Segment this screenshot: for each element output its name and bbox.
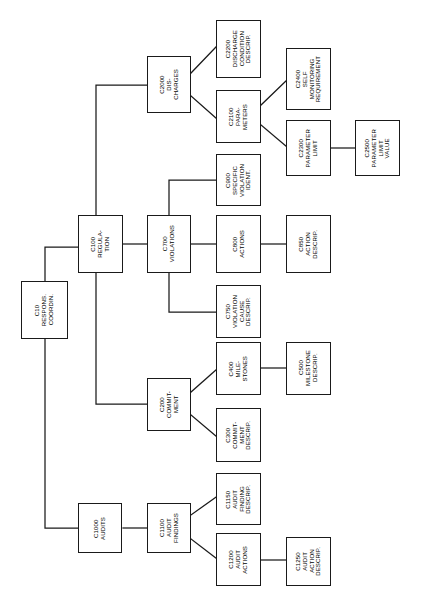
node-label-c900: C900 SPECIFIC VIOLATION IDENT. [225,164,252,197]
connector-14 [191,370,216,392]
node-c500[interactable]: C500 MILESTONE DESCRIP. [286,342,331,395]
node-c750[interactable]: C750 VIOLATION CAUSE DESCRIP. [216,285,261,338]
node-c800[interactable]: C800 ACTIONS [216,215,261,273]
node-c700[interactable]: C700 VIOLATIONS [147,215,191,273]
node-c1200[interactable]: C1200 AUDIT ACTIONS [216,533,261,586]
node-c2100[interactable]: C2100 PARA- METERS [216,90,261,143]
node-label-c750: C750 VIOLATION CAUSE DESCRIP. [225,295,252,328]
connector-8 [261,125,286,146]
node-c200[interactable]: C200 COMMIT- MENT [147,378,191,431]
node-label-c850: C850 ACTION DESCRIP. [298,230,318,259]
node-c2200[interactable]: C2200 DISCHARGE CONDITION DESCRIP. [216,20,261,78]
connector-18 [191,497,216,515]
node-c850[interactable]: C850 ACTION DESCRIP. [286,215,331,273]
node-c10[interactable]: C10 RESPONS. COORDIN. [21,281,68,339]
connector-0 [45,247,78,281]
connector-15 [191,415,216,436]
node-label-c1250: C1250 AUDIT ACTION DESCRIP. [295,547,322,576]
node-c1150[interactable]: C1150 AUDIT FINDING DESCRIP. [216,473,261,525]
node-c1100[interactable]: C1100 AUDIT FINDINGS [147,503,191,553]
node-label-c2200: C2200 DISCHARGE CONDITION DESCRIP. [225,30,252,67]
node-label-c1200: C1200 AUDIT ACTIONS [228,546,248,574]
node-label-c800: C800 ACTIONS [232,230,246,258]
connector-4 [96,273,147,404]
connector-1 [45,339,78,528]
node-c1250[interactable]: C1250 AUDIT ACTION DESCRIP. [286,537,331,586]
node-c400[interactable]: C400 MILE- STONES [216,342,261,395]
node-label-c400: C400 MILE- STONES [228,356,248,382]
node-label-c700: C700 VIOLATIONS [162,225,176,262]
node-label-c500: C500 MILESTONE DESCRIP. [298,350,318,386]
node-label-c300: C300 COMMIT- MENT DESCRIP. [225,421,252,450]
diagram-canvas: C10 RESPONS. COORDIN.C100 REGULA- TIONC7… [0,0,421,603]
node-c900[interactable]: C900 SPECIFIC VIOLATION IDENT. [216,154,261,206]
node-c2500[interactable]: C2500 PARAMETER LIMIT VALUE [355,120,400,176]
node-c2400[interactable]: C2400 SELF MONITORING REQUIREMENT [286,48,331,110]
node-label-c2000: C2000 DIS- CHARGES [159,69,179,100]
connector-7 [261,81,286,105]
connector-6 [191,96,216,118]
node-label-c2500: C2500 PARAMETER LIMIT VALUE [364,129,391,167]
connector-10 [169,180,216,215]
node-label-c2300: C2300 PARAMETER LIMIT [298,129,318,167]
node-c1000[interactable]: C1000 AUDITS [78,503,122,553]
connector-2 [96,85,147,215]
node-label-c2400: C2400 SELF MONITORING REQUIREMENT [295,56,322,102]
node-c100[interactable]: C100 REGULA- TION [78,215,123,273]
node-c2300[interactable]: C2300 PARAMETER LIMIT [286,120,331,176]
node-label-c1150: C1150 AUDIT FINDING DESCRIP. [225,485,252,514]
node-label-c100: C100 REGULA- TION [90,230,110,258]
node-c300[interactable]: C300 COMMIT- MENT DESCRIP. [216,408,261,462]
node-label-c2100: C2100 PARA- METERS [228,104,248,130]
connector-5 [191,47,216,73]
node-c2000[interactable]: C2000 DIS- CHARGES [147,56,191,113]
node-label-c1000: C1000 AUDITS [93,517,107,540]
connector-19 [191,539,216,558]
node-label-c10: C10 RESPONS. COORDIN. [34,294,54,326]
connector-12 [169,273,216,312]
node-label-c200: C200 COMMIT- MENT [159,391,179,418]
node-label-c1100: C1100 AUDIT FINDINGS [159,513,179,543]
